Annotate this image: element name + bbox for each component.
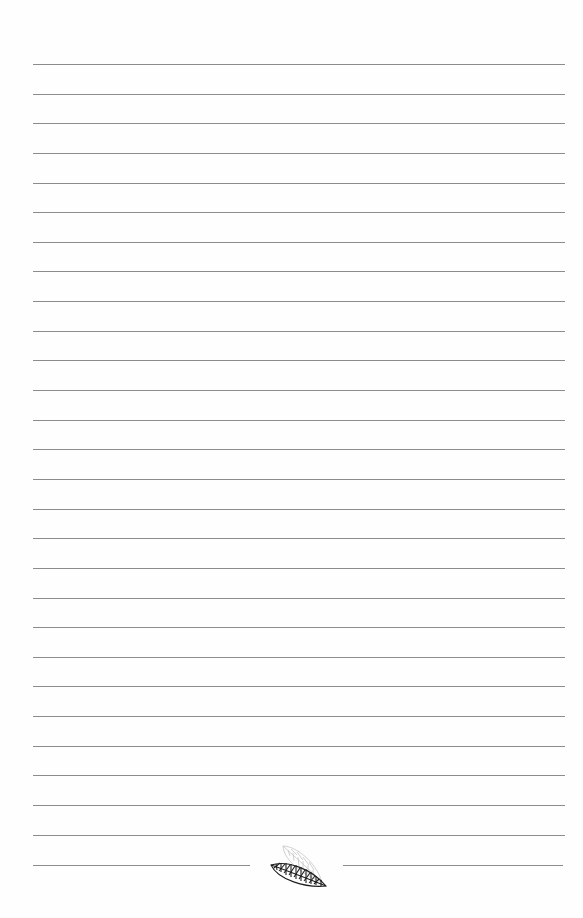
ruled-line [33, 301, 565, 302]
ruled-line [33, 775, 565, 776]
ruled-line [33, 212, 565, 213]
ruled-line [33, 686, 565, 687]
ruled-line [33, 242, 565, 243]
ruled-line [33, 627, 565, 628]
ruled-line [33, 360, 565, 361]
footer-line-left [33, 865, 250, 866]
notebook-page [0, 0, 583, 918]
ruled-line [33, 271, 565, 272]
footer-line-right [343, 865, 563, 866]
ruled-line [33, 331, 565, 332]
ruled-line [33, 449, 565, 450]
ruled-line [33, 598, 565, 599]
ruled-line [33, 420, 565, 421]
ruled-line [33, 538, 565, 539]
leaf-ornament-icon [266, 840, 332, 892]
ruled-line [33, 509, 565, 510]
ruled-line [33, 123, 565, 124]
ruled-line [33, 746, 565, 747]
ruled-line [33, 716, 565, 717]
ruled-line [33, 657, 565, 658]
front-leaf-icon [271, 863, 326, 886]
ruled-line [33, 568, 565, 569]
ruled-line [33, 153, 565, 154]
ruled-line [33, 805, 565, 806]
ruled-line [33, 64, 565, 65]
ruled-line [33, 183, 565, 184]
ruled-line [33, 390, 565, 391]
ruled-line [33, 479, 565, 480]
ruled-line [33, 835, 565, 836]
ruled-line [33, 94, 565, 95]
